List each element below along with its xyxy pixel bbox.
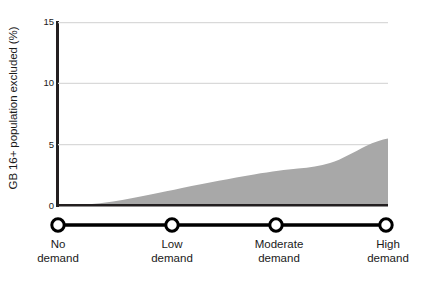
y-tick-label-0: 0: [32, 201, 54, 211]
x-scale-marker-moderate-demand[interactable]: [270, 219, 282, 231]
y-tick-label-15: 15: [32, 17, 54, 27]
x-scale-marker-no-demand[interactable]: [52, 219, 64, 231]
gridlines: [58, 23, 388, 145]
plot-svg: [58, 22, 388, 206]
plot-area: [58, 22, 388, 206]
area-chart-figure: GB 16+ population excluded (%) 15 10 5 0: [0, 0, 426, 281]
y-tick-label-5: 5: [32, 140, 54, 150]
x-scale-marker-low-demand[interactable]: [166, 219, 178, 231]
x-scale-strip: [0, 214, 426, 236]
x-scale-marker-high-demand[interactable]: [380, 219, 392, 231]
x-label-low-demand: Low demand: [151, 237, 193, 266]
y-axis-title-text: GB 16+ population excluded (%): [7, 26, 19, 189]
x-label-moderate-demand: Moderate demand: [255, 237, 304, 266]
x-label-high-demand: High demand: [367, 237, 409, 266]
y-tick-label-10: 10: [32, 79, 54, 89]
x-axis-category-labels: No demand Low demand Moderate demand Hig…: [0, 237, 426, 281]
y-axis-title: GB 16+ population excluded (%): [0, 0, 26, 215]
x-label-no-demand: No demand: [37, 237, 79, 266]
x-scale-svg: [0, 214, 426, 236]
area-series-path: [58, 139, 388, 206]
